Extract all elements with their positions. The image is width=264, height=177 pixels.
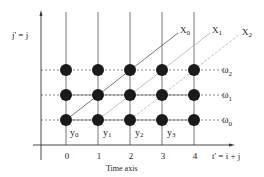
row-labels: ω2 ω1 ω0 bbox=[222, 64, 233, 128]
row-label-omega0: ω0 bbox=[222, 114, 233, 128]
cell-label-y2: y2 bbox=[135, 127, 144, 139]
x-axis-arrow-icon bbox=[229, 144, 235, 147]
x-tick: 1 bbox=[97, 151, 102, 161]
x-tick: 2 bbox=[129, 151, 134, 161]
x-tick: 3 bbox=[161, 151, 166, 161]
y-axis-arrow-icon bbox=[40, 10, 43, 16]
diagonal-labels: X0 X1 X2 bbox=[180, 25, 253, 39]
row-label-omega1: ω1 bbox=[222, 89, 233, 103]
diagonal-label-x0: X0 bbox=[180, 25, 191, 37]
diagonal-label-x1: X1 bbox=[212, 25, 223, 37]
time-axis-diagram: j' = j 0 1 2 3 4 t' = i + j Time axis ω2… bbox=[0, 0, 264, 177]
x-tick-labels: 0 1 2 3 4 bbox=[65, 151, 198, 161]
cell-label-y1: y1 bbox=[103, 127, 112, 139]
y-axis-label: j' = j bbox=[11, 30, 28, 40]
diagonal-label-x2: X2 bbox=[242, 27, 253, 39]
x-axis-caption: Time axis bbox=[106, 164, 138, 173]
cell-label-y0: y0 bbox=[70, 127, 79, 139]
x-tick: 0 bbox=[65, 151, 70, 161]
x-axis-label: t' = i + j bbox=[212, 151, 240, 161]
x-tick: 4 bbox=[193, 151, 198, 161]
row-label-omega2: ω2 bbox=[222, 64, 233, 78]
diagonal-x2 bbox=[130, 34, 240, 120]
diagonal-x0 bbox=[66, 33, 178, 120]
cell-label-y3: y3 bbox=[167, 127, 176, 139]
cell-labels: y0 y1 y2 y3 bbox=[70, 127, 176, 139]
axes bbox=[33, 13, 232, 160]
diagonal-lines bbox=[66, 33, 240, 120]
diagonal-x1 bbox=[98, 33, 210, 120]
